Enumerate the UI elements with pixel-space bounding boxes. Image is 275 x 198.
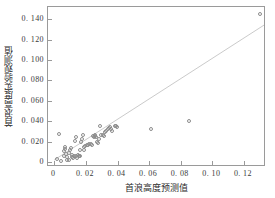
data-point bbox=[67, 158, 71, 162]
y-tick-label: 0 bbox=[40, 156, 44, 165]
x-axis-tick-labels: 00. 020. 040. 060. 080. 100. 12 bbox=[47, 169, 265, 181]
y-tick-label: 0. 100 bbox=[22, 54, 44, 63]
y-tick-label: 0. 080 bbox=[22, 75, 44, 84]
data-point bbox=[115, 125, 119, 129]
data-points-layer bbox=[48, 7, 264, 165]
scatter-chart-figure: 首浪高度实验观测值 00. 0200. 0400. 0600. 0800. 10… bbox=[0, 0, 275, 198]
data-point bbox=[187, 119, 191, 123]
x-tick-label: 0. 04 bbox=[108, 169, 126, 178]
x-tick-label: 0. 12 bbox=[234, 169, 252, 178]
y-tick-mark bbox=[48, 80, 52, 81]
data-point bbox=[102, 134, 106, 138]
data-point bbox=[96, 141, 100, 145]
data-point bbox=[73, 139, 77, 143]
x-tick-mark bbox=[54, 161, 55, 165]
x-tick-mark bbox=[149, 161, 150, 165]
data-point bbox=[69, 146, 73, 150]
y-tick-mark bbox=[48, 19, 52, 20]
data-point bbox=[90, 143, 94, 147]
x-tick-mark bbox=[244, 161, 245, 165]
data-point bbox=[57, 132, 61, 136]
data-point bbox=[98, 124, 102, 128]
x-tick-label: 0 bbox=[51, 169, 55, 178]
y-axis-tick-labels: 00. 0200. 0400. 0600. 0800. 1000. 1200. … bbox=[12, 6, 44, 166]
data-point bbox=[63, 145, 67, 149]
data-point bbox=[258, 12, 262, 16]
x-tick-mark bbox=[118, 161, 119, 165]
data-point bbox=[110, 129, 114, 133]
data-point bbox=[81, 133, 85, 137]
data-point bbox=[80, 137, 84, 141]
x-tick-mark bbox=[86, 161, 87, 165]
x-tick-label: 0. 08 bbox=[171, 169, 189, 178]
y-tick-label: 0. 060 bbox=[22, 95, 44, 104]
y-tick-label: 0. 140 bbox=[22, 14, 44, 23]
data-point bbox=[74, 135, 78, 139]
x-tick-mark bbox=[181, 161, 182, 165]
data-point bbox=[59, 159, 63, 163]
y-tick-mark bbox=[48, 162, 52, 163]
plot-frame bbox=[47, 6, 265, 166]
x-tick-label: 0. 10 bbox=[202, 169, 220, 178]
data-point bbox=[149, 127, 153, 131]
x-axis-title: 首浪高度预测值 bbox=[47, 181, 265, 194]
y-tick-mark bbox=[48, 40, 52, 41]
y-tick-label: 0. 020 bbox=[22, 136, 44, 145]
y-tick-mark bbox=[48, 60, 52, 61]
data-point bbox=[97, 137, 101, 141]
data-point bbox=[82, 148, 86, 152]
data-point bbox=[78, 154, 82, 158]
x-tick-mark bbox=[212, 161, 213, 165]
y-tick-mark bbox=[48, 101, 52, 102]
y-tick-mark bbox=[48, 142, 52, 143]
x-tick-label: 0. 02 bbox=[76, 169, 94, 178]
y-tick-label: 0. 040 bbox=[22, 116, 44, 125]
x-tick-label: 0. 06 bbox=[139, 169, 157, 178]
y-tick-mark bbox=[48, 121, 52, 122]
y-tick-label: 0. 120 bbox=[22, 34, 44, 43]
